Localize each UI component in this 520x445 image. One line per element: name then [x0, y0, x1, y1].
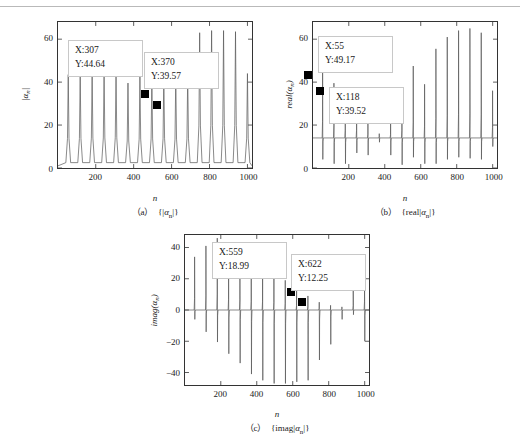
panel-b: 0204060 2004006008001000 real(αn) n （b） …: [268, 14, 512, 219]
panel-c-xtick: 1000: [357, 389, 375, 399]
panel-a-datatip-1-x: X:307: [75, 44, 136, 58]
panel-c-ytick: 40: [135, 242, 180, 252]
panel-b-xtick: 800: [451, 172, 465, 182]
panel-b-datatip-2-marker[interactable]: [316, 87, 324, 95]
panel-a-x-axis-label: n: [57, 193, 253, 203]
panel-b-y-axis-label: real(αn): [284, 59, 297, 129]
panel-c: −40−2002040 2004006008001000 imag(αn) n …: [135, 228, 385, 440]
panel-a-y-axis-label: |αn|: [20, 64, 33, 124]
panel-a-datatip-2-x: X:370: [151, 56, 212, 70]
panel-c-datatip-2-x: X:622: [298, 258, 359, 272]
panel-a-datatip-2-y: Y:39.57: [151, 70, 212, 84]
panel-b-xtick: 400: [378, 172, 392, 182]
panel-c-datatip-1-x: X:559: [219, 246, 280, 260]
panel-c-x-axis-label: n: [184, 409, 370, 419]
panel-b-datatip-1-y: Y:49.17: [325, 54, 386, 68]
panel-c-xtick: 800: [323, 389, 337, 399]
panel-c-xtick: 200: [213, 389, 227, 399]
panel-a-xtick: 1000: [239, 172, 257, 182]
panel-c-ytick: −40: [135, 368, 180, 378]
panel-a-xtick: 600: [165, 172, 179, 182]
panel-a-xtick: 200: [88, 172, 102, 182]
panel-b-datatip-2-x: X:118: [336, 91, 397, 105]
panel-b-xtick: 200: [341, 172, 355, 182]
header-rule: [0, 6, 520, 7]
panel-b-datatip-1-x: X:55: [325, 40, 386, 54]
panel-c-caption: （c） {imag|αn|}: [184, 421, 370, 436]
panel-b-datatip-2[interactable]: X:118 Y:39.52: [329, 87, 404, 124]
panel-b-datatip-1-marker[interactable]: [304, 71, 312, 79]
panel-b-xtick: 600: [414, 172, 428, 182]
panel-b-caption: （b） {real|αn|}: [312, 205, 498, 220]
panel-b-ytick: 0: [268, 164, 308, 174]
panel-b-xtick: 1000: [485, 172, 503, 182]
panel-c-y-axis-label: imag(αn): [149, 275, 162, 345]
panel-a-datatip-1-marker[interactable]: [141, 90, 149, 98]
panel-c-xtick: 600: [286, 389, 300, 399]
panel-a-caption: （a） {|αn|}: [57, 205, 253, 220]
panel-c-datatip-1-y: Y:18.99: [219, 260, 280, 274]
panel-a: 0204060 2004006008001000 |αn| n （a） {|αn…: [10, 14, 260, 219]
panel-a-ytick: 60: [10, 33, 53, 43]
panel-c-datatip-1[interactable]: X:559 Y:18.99: [212, 242, 287, 279]
panel-c-datatip-2-marker[interactable]: [298, 298, 306, 306]
panel-a-datatip-2[interactable]: X:370 Y:39.57: [144, 52, 219, 89]
panel-b-ytick: 60: [268, 33, 308, 43]
panel-a-xtick: 400: [127, 172, 141, 182]
panel-c-datatip-2[interactable]: X:622 Y:12.25: [291, 254, 366, 291]
panel-a-ytick: 0: [10, 164, 53, 174]
panel-a-datatip-1-y: Y:44.64: [75, 58, 136, 72]
panel-b-datatip-2-y: Y:39.52: [336, 105, 397, 119]
panel-b-x-axis-label: n: [312, 193, 498, 203]
panel-c-datatip-2-y: Y:12.25: [298, 272, 359, 286]
panel-a-datatip-2-marker[interactable]: [153, 101, 161, 109]
panel-b-datatip-1[interactable]: X:55 Y:49.17: [318, 36, 393, 73]
panel-a-xtick: 800: [203, 172, 217, 182]
panel-a-datatip-1[interactable]: X:307 Y:44.64: [68, 40, 143, 77]
panel-c-xtick: 400: [250, 389, 264, 399]
